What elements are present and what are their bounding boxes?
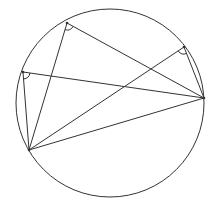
circle — [16, 9, 204, 197]
vertex-E — [183, 46, 186, 49]
chord-AC — [29, 23, 67, 150]
vertex-A — [66, 22, 69, 25]
chord-EC — [29, 47, 184, 150]
vertex-C — [28, 149, 31, 152]
chord-ED — [184, 47, 204, 98]
vertex-D — [203, 97, 206, 100]
inscribed-angles-diagram — [0, 0, 214, 205]
chord-BC — [23, 72, 29, 150]
angle-mark-B — [24, 73, 30, 79]
angle-marks — [24, 26, 187, 79]
circle-outline — [16, 9, 204, 197]
vertex-B — [22, 71, 25, 74]
chords — [23, 23, 204, 150]
chord-CD — [29, 98, 204, 150]
vertices — [22, 22, 206, 152]
chord-AD — [67, 23, 204, 98]
